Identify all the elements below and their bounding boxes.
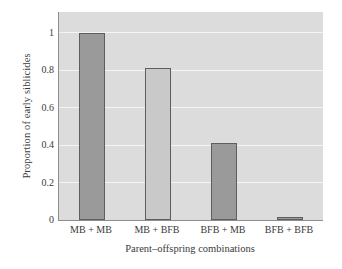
x-axis-tick-label: BFB + BFB [256,224,322,236]
y-axis-tick-label: 1 [28,28,54,38]
bar [277,217,303,220]
y-axis-tick-labels: 00.20.40.60.81 [28,12,54,220]
y-axis-tick-label: 0 [28,215,54,225]
y-axis-tick-label: 0.2 [28,178,54,188]
y-axis-tick-label: 0.4 [28,140,54,150]
bar-chart-figure: Proportion of early siblicides 00.20.40.… [0,0,342,269]
plot-area [58,12,323,221]
bar [211,143,237,220]
x-axis-tick-label: BFB + MB [190,224,256,236]
y-axis-tick-label: 0.8 [28,65,54,75]
y-axis-tick-label: 0.6 [28,103,54,113]
bar [79,33,105,220]
bar [145,68,171,220]
x-axis-tick-label: MB + BFB [124,224,190,236]
x-axis-title: Parent–offspring combinations [58,242,322,255]
x-axis-tick-label: MB + MB [58,224,124,236]
x-axis-tick-labels: MB + MBMB + BFBBFB + MBBFB + BFB [58,224,322,238]
